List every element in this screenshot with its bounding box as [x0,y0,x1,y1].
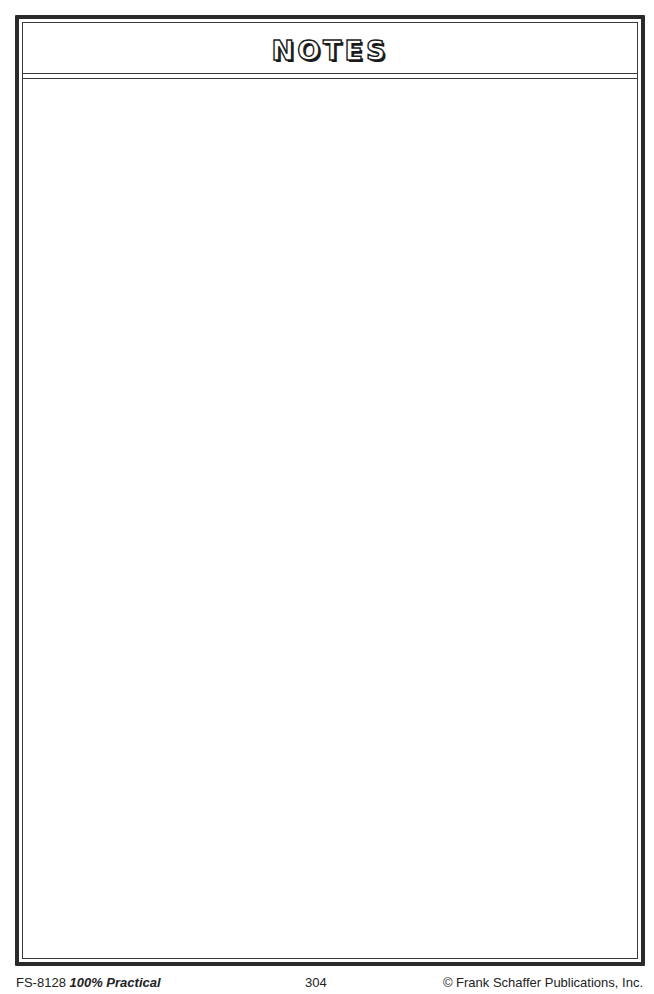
page-title: NOTES [23,35,637,66]
page-inner-border: NOTES [22,22,638,959]
notes-area [23,79,637,958]
footer-book-info: FS-8128 100% Practical [16,975,161,990]
header-box: NOTES [23,23,637,74]
page-footer: FS-8128 100% Practical 304 © Frank Schaf… [0,975,654,991]
page-number: 304 [305,975,327,990]
page-border: NOTES [15,15,645,966]
footer-book-title: 100% Practical [70,975,161,990]
footer-code: FS-8128 [16,975,66,990]
copyright: © Frank Schaffer Publications, Inc. [443,975,643,990]
